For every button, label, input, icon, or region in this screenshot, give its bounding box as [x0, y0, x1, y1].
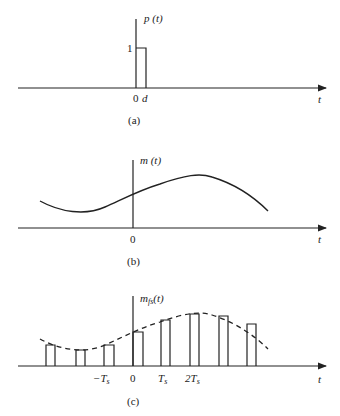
tick-zero: 0 — [130, 233, 136, 245]
tick-2ts: 2Ts — [185, 372, 200, 386]
y-axis-label: mfs(t) — [140, 292, 164, 306]
caption-a: (a) — [128, 114, 141, 127]
caption-c: (c) — [127, 395, 140, 408]
x-axis-label: t — [318, 233, 322, 245]
amplitude-label: 1 — [127, 42, 133, 54]
rect-pulse — [136, 48, 146, 88]
tick-neg-ts: −Ts — [93, 372, 110, 386]
tick-ts: Ts — [158, 372, 167, 386]
envelope-dashed-curve — [40, 313, 268, 350]
tick-zero: 0 — [133, 92, 139, 104]
tick-d: d — [142, 92, 148, 104]
message-curve — [40, 175, 268, 212]
y-axis-label: m (t) — [140, 154, 161, 167]
x-axis-label: t — [318, 93, 322, 105]
panel-a-pulse: p (t) 1 0 d t (a) — [18, 12, 326, 127]
y-axis-label: p (t) — [143, 12, 163, 25]
tick-zero: 0 — [130, 372, 136, 384]
caption-b: (b) — [127, 255, 140, 268]
sampling-figure: p (t) 1 0 d t (a) m (t) 0 t (b) mfs(t) − — [0, 0, 340, 416]
panel-b-message: m (t) 0 t (b) — [18, 154, 326, 268]
sample-pulses — [46, 314, 256, 366]
x-axis-label: t — [318, 373, 322, 385]
panel-c-flat-top-samples: mfs(t) −Ts 0 Ts 2Ts t (c) — [18, 292, 326, 408]
